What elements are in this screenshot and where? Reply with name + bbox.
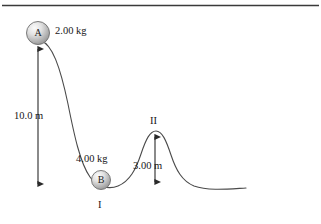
ball-a-letter: A: [28, 28, 48, 38]
diagram-svg: [0, 0, 321, 224]
ball-b-mass-label: 4.00 kg: [76, 154, 108, 165]
ball-b-letter: B: [92, 175, 110, 185]
drop-height-label: 10.0 m: [14, 111, 43, 122]
point-i-label: I: [98, 200, 102, 211]
ball-a-mass-label: 2.00 kg: [55, 26, 87, 37]
hill-height-label: 3.00 m: [133, 161, 162, 172]
point-ii-label: II: [150, 116, 157, 127]
physics-diagram-canvas: A B 2.00 kg 4.00 kg 10.0 m 3.00 m I II: [0, 0, 321, 224]
